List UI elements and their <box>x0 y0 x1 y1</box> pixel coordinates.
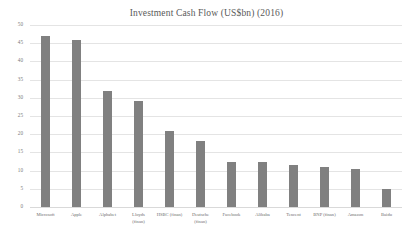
x-axis-tick-label-line: HSBC (finan) <box>154 212 185 219</box>
x-axis-tick-label-line: Alibaba <box>247 212 278 219</box>
x-axis-tick-label-line: Microsoft <box>30 212 61 219</box>
investment-cash-flow-chart: Investment Cash Flow (US$bn) (2016) 5045… <box>0 0 413 245</box>
x-axis-tick-label: Alibaba <box>247 209 278 243</box>
x-axis-tick-label-line: Tencent <box>278 212 309 219</box>
bar <box>320 167 329 207</box>
y-axis-tick-label: 20 <box>18 132 23 137</box>
gridline <box>30 207 402 208</box>
bar-series <box>30 25 402 207</box>
bar-slot <box>309 25 340 207</box>
x-axis-tick-label: BNP (finan) <box>309 209 340 243</box>
x-axis-tick-label: Alphabet <box>92 209 123 243</box>
x-axis-tick-label: Tencent <box>278 209 309 243</box>
x-axis-tick-label-line: (finan) <box>185 219 216 226</box>
bar <box>41 36 50 207</box>
bar-slot <box>185 25 216 207</box>
x-axis-tick-label: Microsoft <box>30 209 61 243</box>
bar <box>227 162 236 208</box>
bar-slot <box>123 25 154 207</box>
y-axis-tick-label: 15 <box>18 150 23 155</box>
bar <box>165 131 174 207</box>
x-axis-tick-label: Baidu <box>371 209 402 243</box>
bar-slot <box>92 25 123 207</box>
bar <box>72 40 81 207</box>
x-axis-tick-label: Deutsche(finan) <box>185 209 216 243</box>
x-axis-tick-label: Amazon <box>340 209 371 243</box>
bar <box>196 141 205 207</box>
x-axis-tick-label-line: Apple <box>61 212 92 219</box>
y-axis: 50454035302520151050 <box>0 25 26 207</box>
y-axis-tick-label: 50 <box>18 22 23 27</box>
bar <box>103 91 112 207</box>
bar-slot <box>278 25 309 207</box>
y-axis-tick-label: 10 <box>18 168 23 173</box>
bar-slot <box>340 25 371 207</box>
x-axis-tick-label-line: Amazon <box>340 212 371 219</box>
plot-area <box>30 25 402 207</box>
y-axis-tick-label: 35 <box>18 77 23 82</box>
y-axis-tick-label: 30 <box>18 95 23 100</box>
x-axis-tick-label: HSBC (finan) <box>154 209 185 243</box>
bar <box>351 169 360 207</box>
y-axis-tick-label: 0 <box>20 204 23 209</box>
bar <box>258 162 267 208</box>
y-axis-tick-label: 40 <box>18 59 23 64</box>
y-axis-tick-label: 5 <box>20 186 23 191</box>
bar-slot <box>371 25 402 207</box>
bar-slot <box>247 25 278 207</box>
bar-slot <box>30 25 61 207</box>
x-axis-tick-label-line: (finan) <box>123 219 154 226</box>
y-axis-tick-label: 25 <box>18 113 23 118</box>
x-axis-tick-label: Apple <box>61 209 92 243</box>
x-axis-tick-label-line: Alphabet <box>92 212 123 219</box>
bar <box>382 189 391 207</box>
x-axis: MicrosoftAppleAlphabetLloyds(finan)HSBC … <box>30 209 402 243</box>
bar <box>289 165 298 207</box>
chart-title: Investment Cash Flow (US$bn) (2016) <box>0 8 413 18</box>
bar-slot <box>154 25 185 207</box>
x-axis-tick-label-line: Baidu <box>371 212 402 219</box>
bar-slot <box>61 25 92 207</box>
y-axis-tick-label: 45 <box>18 41 23 46</box>
x-axis-tick-label: Lloyds(finan) <box>123 209 154 243</box>
x-axis-tick-label-line: Facebook <box>216 212 247 219</box>
bar-slot <box>216 25 247 207</box>
x-axis-tick-label: Facebook <box>216 209 247 243</box>
bar <box>134 101 143 207</box>
x-axis-tick-label-line: BNP (finan) <box>309 212 340 219</box>
